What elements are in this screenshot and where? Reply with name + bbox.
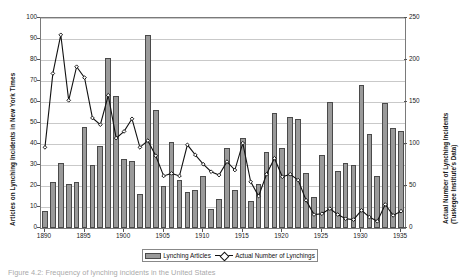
y-tick-mark-left: [37, 38, 40, 39]
x-tick-label: 1915: [227, 232, 257, 239]
legend-label-articles: Lynching Articles: [163, 252, 211, 259]
line-marker: [273, 156, 277, 160]
x-tick-mark: [163, 229, 164, 232]
x-tick-label: 1930: [345, 232, 375, 239]
y-tick-mark-right: [404, 227, 407, 228]
x-tick-label: 1890: [29, 232, 59, 239]
y-tick-label-left: 0: [11, 224, 37, 230]
x-tick-label: 1905: [148, 232, 178, 239]
y-tick-label-right: 100: [409, 140, 435, 146]
line-marker: [51, 72, 55, 76]
figure-caption: Figure 4.2: Frequency of lynching incide…: [8, 268, 215, 277]
y-tick-mark-left: [37, 227, 40, 228]
line-marker: [67, 98, 71, 102]
y-tick-mark-right: [404, 185, 407, 186]
chart-figure: Articles on Lynching Incidents in New Yo…: [0, 0, 459, 277]
x-tick-mark: [84, 229, 85, 232]
x-tick-mark: [44, 229, 45, 232]
y-axis-right-title: Actual Number of Lynching Incidents (Tus…: [442, 14, 457, 224]
y-tick-mark-left: [37, 101, 40, 102]
y-tick-label-right: 0: [409, 224, 435, 230]
y-tick-label-right: 250: [409, 14, 435, 20]
line-marker: [106, 93, 110, 97]
y-tick-mark-left: [37, 185, 40, 186]
x-tick-mark: [400, 229, 401, 232]
x-tick-label: 1920: [266, 232, 296, 239]
y-tick-label-left: 70: [11, 77, 37, 83]
y-tick-mark-right: [404, 143, 407, 144]
y-tick-label-left: 20: [11, 182, 37, 188]
y-axis-right-title-line1: Actual Number of Lynching Incidents: [442, 14, 450, 224]
x-tick-label: 1935: [385, 232, 415, 239]
y-tick-mark-left: [37, 80, 40, 81]
y-tick-label-right: 50: [409, 182, 435, 188]
line-marker: [43, 146, 47, 150]
x-tick-label: 1910: [187, 232, 217, 239]
y-tick-mark-right: [404, 101, 407, 102]
y-tick-label-left: 60: [11, 98, 37, 104]
y-tick-label-left: 50: [11, 119, 37, 125]
chart-legend: Lynching Articles Actual Number of Lynch…: [142, 249, 318, 262]
x-tick-mark: [123, 229, 124, 232]
x-tick-label: 1925: [306, 232, 336, 239]
y-tick-label-left: 10: [11, 203, 37, 209]
line-marker: [178, 174, 182, 178]
y-tick-mark-left: [37, 164, 40, 165]
y-tick-mark-left: [37, 122, 40, 123]
y-tick-label-right: 150: [409, 98, 435, 104]
legend-label-actual: Actual Number of Lynchings: [235, 252, 315, 259]
y-tick-label-right: 200: [409, 56, 435, 62]
line-series-actual-lynchings: [41, 18, 407, 230]
y-tick-label-left: 30: [11, 161, 37, 167]
x-tick-label: 1900: [108, 232, 138, 239]
y-tick-mark-left: [37, 143, 40, 144]
legend-item-actual-lynchings: Actual Number of Lynchings: [215, 252, 315, 259]
y-tick-mark-left: [37, 59, 40, 60]
bar-swatch-icon: [145, 253, 161, 259]
line-marker: [241, 141, 245, 145]
line-marker: [59, 33, 63, 37]
line-path: [45, 35, 401, 221]
x-tick-mark: [242, 229, 243, 232]
x-tick-mark: [281, 229, 282, 232]
y-tick-mark-right: [404, 17, 407, 18]
line-marker: [170, 172, 174, 176]
y-tick-mark-right: [404, 59, 407, 60]
line-diamond-icon: [215, 252, 233, 259]
y-tick-mark-left: [37, 206, 40, 207]
y-tick-label-left: 40: [11, 140, 37, 146]
line-marker: [162, 174, 166, 178]
x-tick-mark: [321, 229, 322, 232]
x-tick-mark: [202, 229, 203, 232]
y-tick-label-left: 90: [11, 35, 37, 41]
legend-item-lynching-articles: Lynching Articles: [145, 252, 211, 259]
y-tick-label-left: 100: [11, 14, 37, 20]
line-marker: [281, 175, 285, 179]
y-axis-right-title-line2: (Tuskegee Institute's Data): [450, 14, 458, 224]
x-tick-mark: [360, 229, 361, 232]
y-tick-label-left: 80: [11, 56, 37, 62]
plot-area: [40, 17, 406, 229]
line-marker: [265, 172, 269, 176]
x-tick-label: 1895: [69, 232, 99, 239]
y-tick-mark-left: [37, 17, 40, 18]
